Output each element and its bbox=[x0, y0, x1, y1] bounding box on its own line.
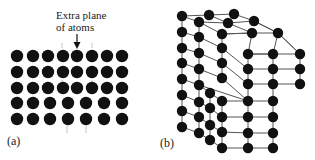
atom bbox=[194, 32, 204, 42]
atom bbox=[177, 27, 187, 37]
atom bbox=[268, 79, 278, 89]
atom bbox=[243, 128, 253, 138]
atom bbox=[194, 48, 204, 58]
atom bbox=[243, 96, 253, 106]
atom bbox=[217, 29, 227, 39]
panel-a-caption: (a) bbox=[7, 134, 20, 149]
atom bbox=[194, 64, 204, 74]
atom bbox=[268, 96, 278, 106]
atom bbox=[295, 79, 305, 89]
atom bbox=[229, 9, 239, 19]
atom bbox=[223, 18, 233, 28]
atom bbox=[217, 43, 227, 53]
atom bbox=[205, 135, 215, 145]
atom bbox=[204, 10, 214, 20]
edge-dislocation-figure: Extra plane of atoms (a) (b) bbox=[0, 0, 315, 160]
atom bbox=[194, 80, 204, 90]
annotation-line-1: Extra plane bbox=[56, 9, 106, 21]
atom bbox=[177, 106, 187, 116]
atom bbox=[268, 143, 278, 153]
annotation-line-2: of atoms bbox=[56, 21, 106, 33]
atom bbox=[205, 120, 215, 130]
atom bbox=[217, 112, 227, 122]
atom bbox=[268, 49, 278, 59]
atom bbox=[243, 112, 253, 122]
panel-b-caption: (b) bbox=[160, 136, 174, 151]
atom bbox=[194, 97, 204, 107]
atom bbox=[295, 49, 305, 59]
atom bbox=[217, 127, 227, 137]
atom bbox=[177, 43, 187, 53]
atom bbox=[268, 64, 278, 74]
atom bbox=[194, 17, 204, 27]
atom bbox=[177, 90, 187, 100]
atom bbox=[268, 128, 278, 138]
atom bbox=[243, 79, 253, 89]
atom bbox=[205, 88, 215, 98]
atom bbox=[205, 103, 215, 113]
atom bbox=[194, 112, 204, 122]
panel-b-lattice-3d bbox=[0, 0, 315, 160]
atom bbox=[243, 49, 253, 59]
atom bbox=[177, 122, 187, 132]
atom bbox=[217, 58, 227, 68]
atom bbox=[243, 143, 253, 153]
atom bbox=[217, 96, 227, 106]
atom bbox=[295, 64, 305, 74]
atom bbox=[177, 11, 187, 21]
atom bbox=[243, 64, 253, 74]
atom bbox=[194, 128, 204, 138]
atom bbox=[217, 143, 227, 153]
atom bbox=[217, 73, 227, 83]
atom bbox=[177, 74, 187, 84]
atom bbox=[268, 112, 278, 122]
atom bbox=[177, 58, 187, 68]
extra-plane-annotation: Extra plane of atoms bbox=[56, 9, 106, 33]
atom bbox=[247, 28, 257, 38]
atom bbox=[273, 28, 283, 38]
atom bbox=[249, 16, 259, 26]
